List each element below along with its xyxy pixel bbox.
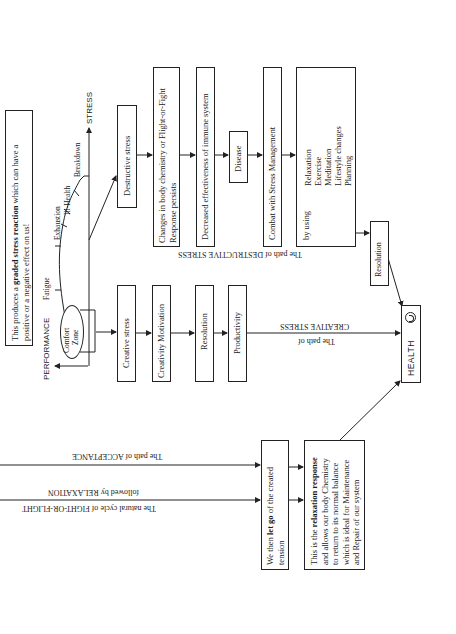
ill-health-label: Ill-Health xyxy=(63,186,74,215)
smiley-icon xyxy=(405,312,416,323)
intro-box: This produces a graded stress reaction w… xyxy=(5,110,33,346)
performance-axis-label: PERFORMANCE xyxy=(42,318,53,380)
health-box: HEALTH xyxy=(401,305,421,383)
relaxation-response-box: This is the relaxation response and allo… xyxy=(304,440,365,570)
destructive-stress-box: Destructive stress xyxy=(117,105,137,208)
fatigue-label: Fatigue xyxy=(42,278,53,301)
breakdown-label: Breakdown xyxy=(73,142,84,177)
combat-box: Combat with Stress Management xyxy=(263,67,282,247)
acceptance-path-label: The path of ACCEPTANCE xyxy=(72,452,162,461)
relaxation-path-label-line1: followed by RELAXATION xyxy=(48,488,139,497)
productivity-box: Productivity xyxy=(228,285,247,382)
creative-stress-box: Creative stress xyxy=(117,285,136,382)
resolution-box-creative: Resolution xyxy=(195,285,214,382)
stress-management-techniques: Relaxation Exercise Meditation Lifestyle… xyxy=(303,126,353,186)
destructive-path-label: The path of DESTRUCTIVE STRESS xyxy=(178,250,302,259)
relaxation-path-label-line2: The natural cycle of FIGHT-OR-FLIGHT xyxy=(22,504,156,513)
by-using-box: by using Relaxation Exercise Meditation … xyxy=(296,67,356,247)
immune-system-box: Decreased effectiveness of immune system xyxy=(196,67,215,247)
creativity-motivation-box: Creativity Motivation xyxy=(152,285,171,382)
creative-path-label-line2: The path of xyxy=(298,337,335,346)
disease-box: Disease xyxy=(229,131,248,183)
stress-axis-label: STRESS xyxy=(85,92,96,124)
comfort-zone-ellipse: Comfort Zone xyxy=(60,305,84,359)
resolution-box-destructive: Resolution xyxy=(370,221,389,286)
creative-path-label-line1: CREATIVE STRESS xyxy=(280,322,349,331)
exhaustion-label: Exhaustion xyxy=(53,206,64,240)
body-chemistry-box: Changes in body chemistry or Flight-or-F… xyxy=(153,67,180,247)
intro-text: This produces a graded stress reaction w… xyxy=(10,145,31,341)
let-go-box: We then let go of the created tension xyxy=(261,440,289,570)
